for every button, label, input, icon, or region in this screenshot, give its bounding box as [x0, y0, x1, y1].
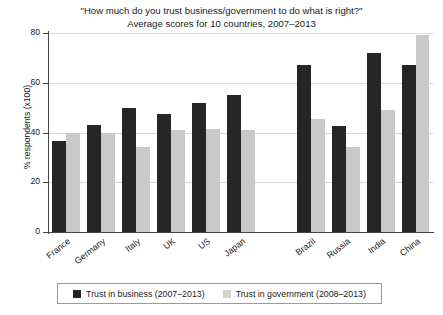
bar-us-government [206, 129, 220, 232]
bar-brazil-government [311, 119, 325, 232]
bar-france-government [66, 133, 80, 233]
gridline [49, 33, 433, 34]
y-tick-label: 60 [14, 78, 40, 87]
bar-italy-government [136, 147, 150, 232]
y-tick-label: 0 [14, 227, 40, 236]
bar-china-government [416, 35, 430, 232]
y-tick-mark [43, 83, 48, 84]
bar-russia-business [332, 126, 346, 232]
y-tick-mark [43, 33, 48, 34]
y-axis-line [48, 31, 49, 234]
bar-brazil-business [297, 65, 311, 232]
y-tick-label: 40 [14, 128, 40, 137]
chart-title-block: "How much do you trust business/governme… [0, 4, 443, 30]
chart-subtitle: Average scores for 10 countries, 2007–20… [0, 17, 443, 30]
bar-us-business [192, 103, 206, 232]
bar-germany-business [87, 125, 101, 232]
y-tick-label: 80 [14, 28, 40, 37]
legend-item-business: Trust in business (2007–2013) [73, 289, 205, 299]
bar-france-business [52, 141, 66, 232]
chart-title: "How much do you trust business/governme… [0, 4, 443, 17]
y-tick-label: 20 [14, 177, 40, 186]
bar-japan-business [227, 95, 241, 232]
y-tick-mark [43, 133, 48, 134]
bar-india-business [367, 53, 381, 232]
legend-swatch-business-icon [73, 290, 81, 298]
bar-germany-government [101, 133, 115, 233]
bar-russia-government [346, 147, 360, 232]
bar-japan-government [241, 130, 255, 232]
chart-legend: Trust in business (2007–2013) Trust in g… [57, 283, 382, 304]
legend-label-government: Trust in government (2008–2013) [236, 289, 366, 299]
x-axis-line [48, 232, 434, 233]
bar-uk-business [157, 114, 171, 232]
legend-swatch-government-icon [223, 290, 231, 298]
bar-india-government [381, 110, 395, 232]
bar-uk-government [171, 130, 185, 232]
y-tick-mark [43, 232, 48, 233]
bar-china-business [402, 65, 416, 232]
y-tick-mark [43, 182, 48, 183]
legend-item-government: Trust in government (2008–2013) [223, 289, 366, 299]
bar-chart: "How much do you trust business/governme… [0, 0, 443, 315]
bar-italy-business [122, 108, 136, 232]
legend-label-business: Trust in business (2007–2013) [86, 289, 205, 299]
